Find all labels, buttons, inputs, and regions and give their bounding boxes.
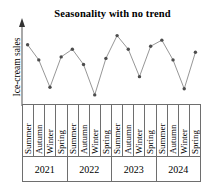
season-label-cell: Spring	[145, 105, 156, 156]
season-label-cell: Spring	[190, 105, 201, 156]
season-label: Winter	[46, 129, 55, 154]
season-label-cell: Spring	[56, 105, 67, 156]
season-label-cell: Winter	[90, 105, 101, 156]
season-label: Autumn	[79, 124, 88, 154]
season-label: Summer	[68, 124, 77, 155]
season-label: Winter	[135, 129, 144, 154]
data-series-markers	[26, 34, 197, 97]
season-label: Summer	[24, 124, 33, 155]
season-label-cell: Autumn	[168, 105, 179, 156]
season-label-cell: Winter	[45, 105, 56, 156]
data-point-marker	[171, 58, 174, 61]
plot-area	[0, 16, 203, 106]
data-point-marker	[59, 55, 62, 58]
season-label-row: SummerAutumnWinterSpringSummerAutumnWint…	[22, 104, 201, 156]
data-point-marker	[127, 48, 130, 51]
season-label-cell: Summer	[157, 105, 168, 156]
season-label: Autumn	[124, 124, 133, 154]
season-label: Summer	[113, 124, 122, 155]
data-point-marker	[194, 51, 197, 54]
data-point-marker	[48, 86, 51, 89]
season-label-cell: Summer	[23, 105, 34, 156]
data-point-marker	[93, 93, 96, 96]
season-label-cell: Winter	[134, 105, 145, 156]
season-label-cell: Winter	[179, 105, 190, 156]
season-label: Spring	[190, 130, 199, 154]
season-label: Autumn	[168, 124, 177, 154]
season-label-cell: Summer	[112, 105, 123, 156]
season-label: Spring	[57, 130, 66, 154]
data-point-marker	[71, 48, 74, 51]
data-point-marker	[160, 38, 163, 41]
data-point-marker	[183, 87, 186, 90]
season-label-cell: Autumn	[79, 105, 90, 156]
data-point-marker	[82, 63, 85, 66]
data-point-marker	[104, 57, 107, 60]
data-point-marker	[149, 45, 152, 48]
season-label-cell: Spring	[101, 105, 112, 156]
season-label: Winter	[179, 129, 188, 154]
data-point-marker	[138, 75, 141, 78]
season-label-cell: Summer	[68, 105, 79, 156]
data-point-marker	[115, 34, 118, 37]
year-label-cell: 2022	[68, 157, 113, 181]
season-label: Autumn	[35, 124, 44, 154]
x-axis: SummerAutumnWinterSpringSummerAutumnWint…	[22, 104, 201, 182]
season-label: Spring	[101, 130, 110, 154]
y-axis-arrow-icon	[19, 18, 25, 27]
year-label-cell: 2023	[112, 157, 157, 181]
year-label-row: 2021202220232024	[22, 156, 201, 182]
seasonality-chart: Seasonality with no trend Ice-cream sale…	[0, 0, 203, 190]
season-label-cell: Autumn	[34, 105, 45, 156]
season-label: Winter	[90, 129, 99, 154]
year-label-cell: 2024	[157, 157, 202, 181]
data-series-line	[28, 36, 196, 95]
data-point-marker	[26, 43, 29, 46]
season-label-cell: Autumn	[123, 105, 134, 156]
data-point-marker	[37, 58, 40, 61]
year-label-cell: 2021	[23, 157, 68, 181]
season-label: Summer	[157, 124, 166, 155]
season-label: Spring	[146, 130, 155, 154]
